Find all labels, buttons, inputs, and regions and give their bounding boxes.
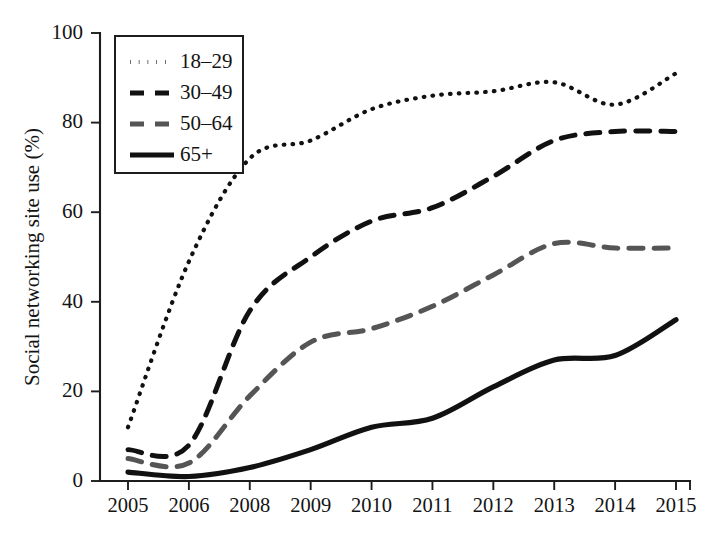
x-axis-tick-label: 2009	[290, 494, 331, 516]
legend-label: 18–29	[180, 49, 233, 73]
x-axis-tick-label: 2012	[473, 494, 514, 516]
x-axis-tick-label: 2011	[412, 494, 452, 516]
chart-legend: 18–2930–4950–6465+	[115, 36, 243, 173]
y-axis-ticks	[91, 33, 100, 481]
x-axis-tick-label: 2015	[656, 494, 697, 516]
x-axis-tick-labels: 2005200620082009201020112012201320142015	[108, 494, 697, 516]
y-axis-title: Social networking site use (%)	[20, 128, 44, 386]
series-line-50-64	[128, 242, 676, 467]
legend-label: 30–49	[180, 80, 233, 104]
x-axis-ticks	[128, 481, 690, 490]
chart-container: Social networking site use (%) 020406080…	[0, 0, 715, 548]
y-axis-tick-label: 20	[62, 378, 83, 402]
x-axis-tick-label: 2005	[108, 494, 149, 516]
legend-label: 50–64	[180, 111, 233, 135]
y-axis-tick-label: 60	[62, 199, 83, 223]
y-axis-tick-labels: 020406080100	[52, 20, 84, 492]
series-line-30-49	[128, 131, 676, 457]
x-axis-tick-label: 2010	[351, 494, 392, 516]
x-axis-tick-label: 2006	[168, 494, 209, 516]
x-axis-tick-label: 2008	[229, 494, 270, 516]
y-axis-tick-label: 0	[73, 468, 84, 492]
series-line-65+	[128, 320, 676, 477]
y-axis-tick-label: 80	[62, 109, 83, 133]
legend-label: 65+	[180, 142, 213, 166]
y-axis-tick-label: 40	[62, 289, 83, 313]
y-axis-tick-label: 100	[52, 20, 84, 44]
x-axis-tick-label: 2013	[534, 494, 575, 516]
x-axis-tick-label: 2014	[595, 494, 636, 516]
line-chart-figure: Social networking site use (%) 020406080…	[0, 0, 715, 548]
